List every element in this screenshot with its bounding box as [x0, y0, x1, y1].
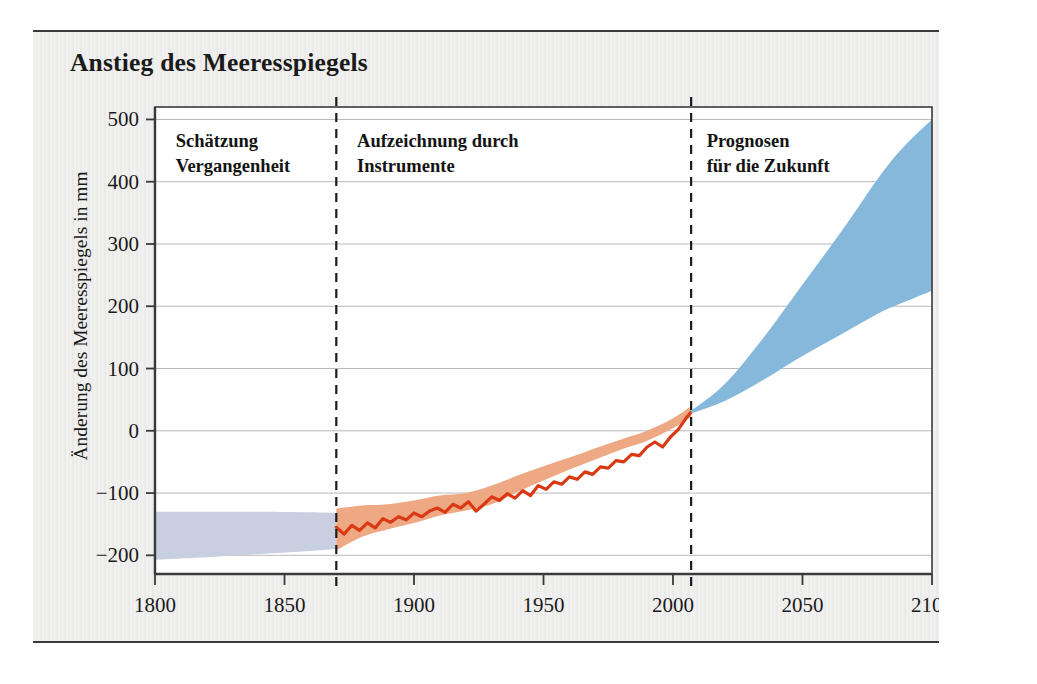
x-tick-label-2000: 2000 — [652, 593, 694, 617]
sea-level-chart-plot: 5004003002001000−100−2001800185019001950… — [33, 32, 939, 645]
y-tick-label-400: 400 — [108, 170, 140, 194]
annotation-past-estimate-line1: Schätzung — [176, 131, 259, 151]
figure-frame: Anstieg des Meeresspiegels Änderung des … — [33, 30, 939, 643]
annotation-instrumental-record-line1: Aufzeichnung durch — [357, 131, 519, 151]
y-tick-label-300: 300 — [108, 232, 140, 256]
y-tick-label-100: 100 — [108, 357, 140, 381]
x-tick-label-1850: 1850 — [264, 593, 306, 617]
x-tick-label-1800: 1800 — [134, 593, 176, 617]
y-tick-label--100: −100 — [96, 481, 139, 505]
x-tick-label-2050: 2050 — [782, 593, 824, 617]
x-tick-label-2100: 2100 — [911, 593, 939, 617]
y-tick-label--200: −200 — [96, 543, 139, 567]
annotation-future-projection-line2: für die Zukunft — [707, 156, 831, 176]
annotation-past-estimate-line2: Vergangenheit — [176, 156, 291, 176]
y-tick-label-500: 500 — [108, 107, 140, 131]
y-tick-label-200: 200 — [108, 294, 140, 318]
annotation-future-projection-line1: Prognosen — [707, 131, 791, 151]
y-tick-label-0: 0 — [129, 419, 140, 443]
x-tick-label-1950: 1950 — [523, 593, 565, 617]
annotation-instrumental-record-line2: Instrumente — [357, 156, 455, 176]
figure-root: Anstieg des Meeresspiegels Änderung des … — [0, 0, 1037, 684]
x-tick-label-1900: 1900 — [393, 593, 435, 617]
